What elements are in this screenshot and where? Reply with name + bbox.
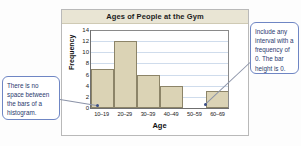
callout-zero-frequency-interval: Include any interval with a frequency of… [250,22,299,74]
x-tick-label: 40–49 [160,111,183,117]
x-tick-label: 30–39 [136,111,159,117]
y-tick-label: 4 [86,83,89,89]
callout-no-space-between-bars: There is no space between the bars of a … [2,76,60,120]
bar-10-19 [91,69,114,108]
x-axis-tick-labels: 10–1920–2930–3940–4950–5960–69 [90,111,229,117]
bar-30-39 [137,75,160,108]
bar-40-49 [160,86,183,108]
leader-endpoint-dot [204,103,207,106]
bar-slot [91,30,114,108]
bar-slot [206,30,229,108]
y-tick-label: 10 [82,49,89,55]
y-tick-label: 6 [86,72,89,78]
chart-title: Ages of People at the Gym [106,12,204,21]
y-tick-label: 14 [82,27,89,33]
chart-panel: Ages of People at the Gym Frequency 0246… [61,9,249,136]
x-tick-label: 20–29 [113,111,136,117]
x-tick-label: 60–69 [206,111,229,117]
x-axis-title: Age [90,121,229,130]
figure-root: Ages of People at the Gym Frequency 0246… [0,0,301,146]
y-tick-label: 2 [86,94,89,100]
y-tick-label: 12 [82,38,89,44]
y-tick-label: 0 [86,105,89,111]
y-axis-title: Frequency [68,35,75,70]
x-tick-label: 50–59 [183,111,206,117]
plot-area: 02468101214 [90,30,229,109]
chart-title-band: Ages of People at the Gym [62,10,248,24]
bar-slot [114,30,137,108]
bar-slot [160,30,183,108]
bar-slot [183,30,206,108]
bar-series [91,30,229,108]
bar-slot [137,30,160,108]
x-tick-label: 10–19 [90,111,113,117]
bar-20-29 [114,41,137,108]
y-tick-label: 8 [86,60,89,66]
leader-endpoint-dot [96,104,99,107]
